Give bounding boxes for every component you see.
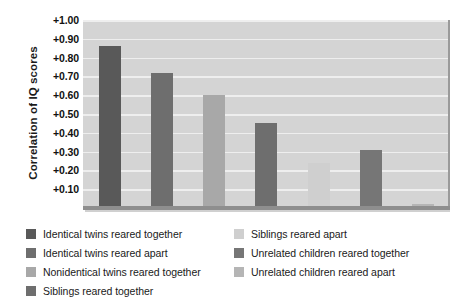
bar-series [83,20,448,208]
bar-0 [99,46,121,208]
legend-item: Siblings reared together [26,281,201,300]
legend: Identical twins reared togetherIdentical… [26,224,456,300]
legend-column-left: Identical twins reared togetherIdentical… [26,224,201,300]
y-axis-tick-0-7: +0.70 [53,70,79,82]
legend-label: Siblings reared together [43,285,153,297]
y-axis-tick-0-8: +0.80 [53,52,79,64]
x-axis-baseline [83,206,450,210]
y-axis-title: Correlation of IQ scores [22,18,44,208]
legend-item: Nonidentical twins reared together [26,262,201,281]
legend-item: Unrelated children reared apart [234,262,409,281]
legend-column-right: Siblings reared apartUnrelated children … [234,224,409,281]
y-axis-tick-0-9: +0.90 [53,33,79,45]
legend-label: Nonidentical twins reared together [43,266,201,278]
bar-5 [360,150,382,208]
bar-4 [308,163,330,208]
legend-swatch-icon [234,267,244,277]
y-axis-tick-0-1: +0.10 [53,183,79,195]
y-axis-tick-0-4: +0.40 [53,127,79,139]
legend-label: Identical twins reared apart [43,247,168,259]
iq-correlation-bar-chart: Correlation of IQ scores +1.00+0.90+0.80… [0,0,462,306]
bar-3 [255,123,277,208]
legend-item: Identical twins reared apart [26,243,201,262]
bar-2 [203,95,225,208]
y-axis-tick-1: +1.00 [53,14,79,26]
legend-swatch-icon [26,286,36,296]
y-axis-tick-0-3: +0.30 [53,146,79,158]
y-axis-tick-labels: +1.00+0.90+0.80+0.70+0.60+0.50+0.40+0.30… [44,18,82,210]
y-axis-tick-0-5: +0.50 [53,108,79,120]
y-axis-title-label: Correlation of IQ scores [27,46,39,179]
legend-label: Siblings reared apart [251,228,347,240]
legend-swatch-icon [234,248,244,258]
legend-swatch-icon [26,248,36,258]
y-axis-tick-0-2: +0.20 [53,164,79,176]
plot-area [83,20,450,208]
y-axis-tick-0-6: +0.60 [53,89,79,101]
legend-swatch-icon [26,229,36,239]
legend-label: Unrelated children reared apart [251,266,395,278]
bar-1 [151,73,173,208]
legend-item: Siblings reared apart [234,224,409,243]
legend-label: Identical twins reared together [43,228,182,240]
legend-label: Unrelated children reared together [251,247,409,259]
legend-item: Unrelated children reared together [234,243,409,262]
legend-swatch-icon [26,267,36,277]
legend-swatch-icon [234,229,244,239]
legend-item: Identical twins reared together [26,224,201,243]
